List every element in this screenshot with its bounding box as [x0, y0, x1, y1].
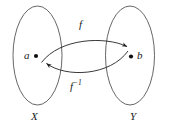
diagram-canvas: [0, 0, 170, 131]
label-set-x: X: [31, 111, 38, 122]
point-b-dot: [129, 54, 133, 58]
label-set-y: Y: [130, 111, 136, 122]
arrow-f-inverse: [47, 51, 129, 73]
label-element-b: b: [137, 50, 143, 61]
label-map-f-inverse: f−1: [70, 79, 82, 92]
arrow-f-forward: [42, 40, 128, 62]
function-inverse-diagram: a b f f−1 X Y: [0, 0, 170, 131]
label-map-f-inverse-exponent: −1: [73, 78, 82, 87]
point-a-dot: [34, 54, 38, 58]
label-element-a: a: [24, 50, 30, 61]
label-map-f: f: [79, 19, 82, 30]
